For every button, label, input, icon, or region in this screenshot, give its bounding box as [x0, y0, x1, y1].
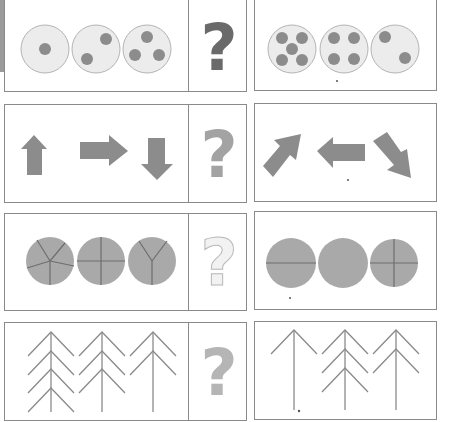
row-4-sequence-box: ? — [4, 322, 247, 421]
option-dot-circle-2[interactable] — [371, 25, 419, 73]
row-3-sequence-box: ? — [4, 213, 247, 311]
option-pie-1-section[interactable] — [318, 238, 368, 288]
row-3-options-box[interactable] — [254, 211, 437, 310]
arrow-down — [141, 138, 173, 180]
option-arrow-left[interactable] — [317, 137, 365, 168]
option-dot-circle-5[interactable] — [268, 25, 316, 73]
dot-circle-2 — [72, 25, 120, 73]
option-pie-2-sections[interactable] — [266, 238, 316, 288]
row-4-options-box[interactable] — [254, 321, 437, 420]
option-arrow-up-right[interactable] — [263, 134, 301, 177]
row-1-sequence-box: ? — [4, 0, 247, 92]
tree-3-branches — [79, 332, 125, 412]
question-mark-4: ? — [193, 338, 245, 408]
pie-5-sections — [26, 237, 74, 285]
arrow-right — [80, 135, 128, 166]
option-tree-3-branches[interactable] — [322, 330, 368, 410]
row-4-option-shapes — [255, 322, 438, 421]
option-dot-circle-4[interactable] — [320, 25, 368, 73]
option-tree-1-branch[interactable] — [271, 330, 317, 410]
row-3-option-shapes — [255, 212, 438, 311]
option-arrow-down-right[interactable] — [373, 132, 411, 178]
row-1-option-shapes — [255, 0, 438, 92]
question-mark-2: ? — [193, 120, 245, 190]
question-mark-1: ? — [193, 13, 245, 83]
question-mark-3: ? — [193, 228, 245, 298]
row-2-options-box[interactable] — [254, 103, 437, 202]
dot-circle-1 — [21, 25, 69, 73]
row-1-options-box[interactable] — [254, 0, 437, 91]
arrow-up — [21, 135, 47, 175]
option-tree-2-branches[interactable] — [373, 330, 419, 410]
pie-3-sections — [128, 237, 176, 285]
option-pie-4-sections[interactable] — [370, 239, 418, 287]
row-2-sequence-box: ? — [4, 104, 247, 203]
tree-2-branches — [130, 332, 176, 412]
dot-circle-3 — [123, 25, 171, 73]
tree-4-branches — [28, 332, 74, 412]
row-2-option-shapes — [255, 104, 438, 203]
pie-4-sections — [77, 237, 125, 285]
